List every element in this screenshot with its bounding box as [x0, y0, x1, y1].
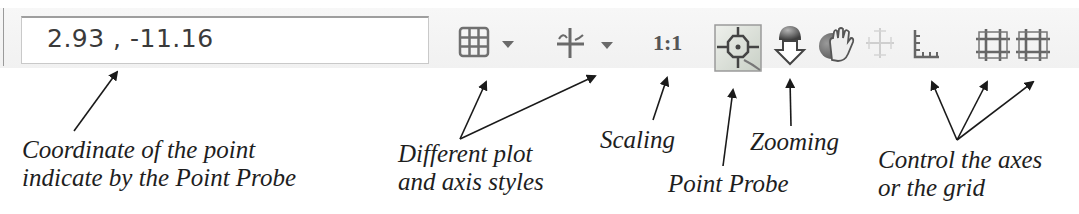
label-plot-axis-styles: Different plot and axis styles: [398, 140, 544, 196]
label-point-probe: Point Probe: [668, 170, 789, 198]
label-styles-line2: and axis styles: [398, 168, 544, 196]
label-axes-grid: Control the axes or the grid: [878, 146, 1042, 202]
label-scaling: Scaling: [600, 126, 675, 154]
label-coordinate-line1: Coordinate of the point: [22, 136, 296, 164]
label-axes-grid-line1: Control the axes: [878, 146, 1042, 174]
label-styles-line1: Different plot: [398, 140, 544, 168]
label-coordinate-line2: indicate by the Point Probe: [22, 164, 296, 192]
label-zooming: Zooming: [750, 128, 839, 156]
label-coordinate: Coordinate of the point indicate by the …: [22, 136, 296, 192]
label-axes-grid-line2: or the grid: [878, 174, 1042, 202]
